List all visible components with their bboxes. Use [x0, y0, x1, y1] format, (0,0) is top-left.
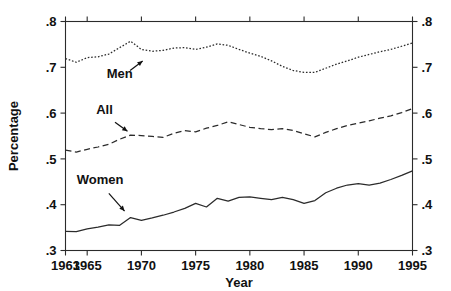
series-annotation-arrowhead-all: [122, 126, 128, 131]
x-tick-label-1985: 1985: [290, 258, 319, 273]
series-annotation-label-all: All: [96, 102, 113, 117]
x-tick-label-1970: 1970: [127, 258, 156, 273]
y-tick-label-left-p7: .7: [46, 60, 57, 75]
x-axis-title: Year: [225, 275, 252, 290]
plot-border: [66, 22, 413, 251]
x-tick-label-1980: 1980: [235, 258, 264, 273]
x-tick-label-1965: 1965: [73, 258, 102, 273]
y-tick-label-left-p4: .4: [46, 197, 58, 212]
y-tick-label-right-p3: .3: [422, 243, 433, 258]
series-annotations: MenAllWomen: [77, 61, 143, 211]
series-annotation-label-men: Men: [107, 66, 133, 81]
x-axis-tick-labels: 19631965197019751980198519901995: [51, 258, 427, 273]
x-tick-label-1975: 1975: [181, 258, 210, 273]
x-tick-label-1995: 1995: [398, 258, 427, 273]
y-tick-label-right-p5: .5: [422, 152, 433, 167]
y-tick-label-left-p6: .6: [46, 106, 57, 121]
x-axis-ticks: [66, 17, 413, 256]
plot-frame: [66, 22, 413, 251]
y-axis-tick-labels-left: .3.4.5.6.7.8: [46, 14, 58, 258]
chart-figure: 19631965197019751980198519901995 .3.4.5.…: [0, 0, 451, 291]
y-axis-ticks-left: [61, 22, 66, 251]
series-annotation-label-women: Women: [77, 172, 124, 187]
y-tick-label-left-p8: .8: [46, 14, 57, 29]
y-tick-label-left-p3: .3: [46, 243, 57, 258]
series-line-all: [66, 109, 413, 153]
y-tick-label-left-p5: .5: [46, 152, 57, 167]
y-axis-title: Percentage: [6, 101, 21, 171]
x-tick-label-1990: 1990: [344, 258, 373, 273]
y-tick-label-right-p7: .7: [422, 60, 433, 75]
y-tick-label-right-p4: .4: [422, 197, 434, 212]
y-tick-label-right-p6: .6: [422, 106, 433, 121]
y-axis-ticks-right: [413, 22, 418, 251]
y-tick-label-right-p8: .8: [422, 14, 433, 29]
y-axis-tick-labels-right: .3.4.5.6.7.8: [422, 14, 434, 258]
line-chart: 19631965197019751980198519901995 .3.4.5.…: [0, 0, 451, 291]
